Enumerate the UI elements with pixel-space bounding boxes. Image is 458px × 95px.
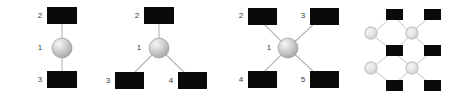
panel-linear-two-coordinate: 2 1 3 <box>0 0 115 95</box>
ligand-square-4 <box>248 71 277 88</box>
lattice-square-4 <box>424 45 441 56</box>
label-center-1: 1 <box>137 43 142 52</box>
label-ligand-4: 4 <box>239 75 244 84</box>
lattice-ring-1 <box>365 27 377 39</box>
ligand-square-3 <box>310 8 339 25</box>
center-sphere-1 <box>149 38 169 58</box>
ligand-square-5 <box>310 71 339 88</box>
panel-tetrahedral-four-coordinate: 2 3 1 4 5 <box>228 0 348 95</box>
lattice-ring-3 <box>365 62 377 74</box>
lattice-square-5 <box>386 80 403 91</box>
ligand-square-4 <box>178 72 207 89</box>
label-ligand-3: 3 <box>106 76 111 85</box>
panel-trigonal-three-coordinate: 2 1 3 4 <box>100 0 215 95</box>
ligand-square-2 <box>248 8 277 25</box>
ligand-square-3 <box>115 72 144 89</box>
label-ligand-2: 2 <box>239 11 244 20</box>
lattice-square-2 <box>424 9 441 20</box>
label-center-1: 1 <box>267 43 272 52</box>
label-ligand-2: 2 <box>38 11 43 20</box>
center-sphere-1 <box>52 38 72 58</box>
label-ligand-2: 2 <box>135 11 140 20</box>
lattice-ring-2 <box>406 27 418 39</box>
coordination-geometry-figure: 2 1 3 2 1 3 <box>0 0 458 95</box>
lattice-square-6 <box>424 80 441 91</box>
center-sphere-1 <box>278 38 298 58</box>
ligand-square-2 <box>144 7 174 24</box>
label-ligand-5: 5 <box>301 75 306 84</box>
lattice-square-3 <box>386 45 403 56</box>
label-center-1: 1 <box>38 43 43 52</box>
label-ligand-3: 3 <box>38 75 43 84</box>
label-ligand-3: 3 <box>301 11 306 20</box>
lattice-ring-4 <box>406 62 418 74</box>
panel-extended-lattice-network <box>352 0 458 95</box>
label-ligand-4: 4 <box>169 76 174 85</box>
ligand-square-2 <box>47 7 77 24</box>
ligand-square-3 <box>47 71 77 88</box>
lattice-square-1 <box>386 9 403 20</box>
